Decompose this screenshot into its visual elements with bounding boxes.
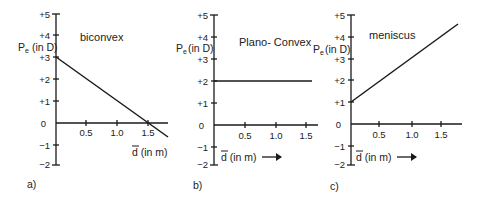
svg-text:0: 0 [336,119,341,130]
svg-text:1.5: 1.5 [434,129,447,140]
panel-a-xticks: 0.5 1.0 1.5 [79,127,154,138]
svg-text:+4: +4 [334,32,345,43]
panel-c-xlabel: d (in m) [356,151,392,163]
svg-text:−2: −2 [197,159,208,170]
panel-b-title: Plano- Convex [239,36,312,48]
svg-text:+1: +1 [197,98,208,109]
panel-b-xticks: 0.5 1.0 1.5 [238,130,312,141]
svg-text:1.5: 1.5 [299,130,312,141]
svg-text:+4: +4 [39,30,50,41]
svg-text:−2: −2 [334,159,345,170]
svg-text:0.5: 0.5 [238,130,251,141]
svg-text:+2: +2 [197,76,208,87]
svg-text:+2: +2 [334,75,345,86]
panel-b-xlabel: d (in m) [221,151,257,163]
panel-c-yticks: +5 +4 +3 +2 +1 0 −1 −2 [334,10,345,170]
svg-text:−2: −2 [39,159,50,170]
panel-a-ylabel: Pe(in D) [18,41,58,54]
figure-canvas: +5 +4 +3 +2 +1 0 −1 −2 0.5 1.0 1.5 Pe(in… [0,0,482,200]
svg-text:+5: +5 [197,10,208,21]
panel-c-xticks: 0.5 1.0 1.5 [372,129,447,140]
svg-text:+3: +3 [197,54,208,65]
svg-text:+1: +1 [39,96,50,107]
svg-text:0: 0 [199,120,204,131]
svg-text:0.5: 0.5 [372,129,385,140]
panel-c-title: meniscus [369,29,416,41]
svg-text:1.5: 1.5 [141,127,154,138]
panel-a-title: biconvex [80,31,124,43]
panel-c-label: c) [330,180,339,192]
svg-text:+3: +3 [39,52,50,63]
panel-c-ylabel: Pe(in D) [313,43,351,56]
svg-text:+3: +3 [334,54,345,65]
svg-text:1.0: 1.0 [269,130,282,141]
panel-b-label: b) [193,179,202,191]
svg-text:+5: +5 [334,10,345,21]
svg-text:+2: +2 [39,74,50,85]
svg-text:+5: +5 [39,9,50,20]
svg-text:0.5: 0.5 [79,127,92,138]
svg-text:1.0: 1.0 [405,129,418,140]
panel-a-yticks: +5 +4 +3 +2 +1 0 −1 −2 [39,9,50,170]
svg-text:−1: −1 [334,141,345,152]
svg-text:+1: +1 [334,97,345,108]
svg-text:0: 0 [41,118,46,129]
svg-text:−1: −1 [39,140,50,151]
panel-a-xlabel: d (in m) [132,146,168,158]
panel-a-biconvex-line [56,57,168,137]
panel-b-ylabel: Pe(in D) [176,42,214,55]
panel-a-label: a) [27,178,36,190]
panel-b-yticks: +5 +4 +3 +2 +1 0 −1 −2 [197,10,208,170]
svg-text:−1: −1 [197,142,208,153]
svg-text:1.0: 1.0 [110,127,123,138]
